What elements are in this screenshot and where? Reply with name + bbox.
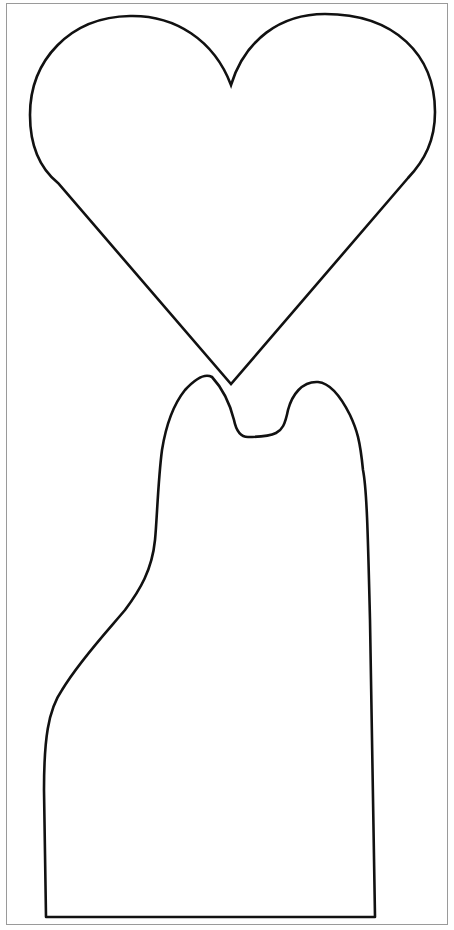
cat-outline [44,376,375,917]
template-page: Heart outline Cat silhouette outline [0,0,454,930]
heart-outline [30,14,435,384]
template-artwork [0,0,454,930]
